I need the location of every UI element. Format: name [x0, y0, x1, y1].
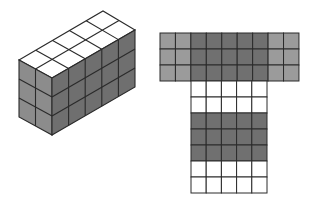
net-cell [206, 49, 221, 65]
net-cell [237, 97, 252, 113]
net-cell [237, 81, 252, 97]
net-cell [237, 49, 252, 65]
net-cell [206, 161, 221, 177]
net-cell [191, 49, 206, 65]
net-cell [252, 129, 267, 145]
net-cell [206, 81, 221, 97]
net-cell [191, 113, 206, 129]
net-cell [191, 145, 206, 161]
net-cell [175, 65, 190, 81]
net-cell [253, 33, 268, 49]
net-cell [252, 145, 267, 161]
net-cell [221, 145, 236, 161]
net-cell [191, 129, 206, 145]
net-cell [221, 81, 236, 97]
net-cell [191, 97, 206, 113]
net-cell [222, 49, 237, 65]
net-cell [191, 177, 206, 193]
net-cell [284, 65, 299, 81]
net-cell [221, 177, 236, 193]
net-cell [237, 65, 252, 81]
net-cell [221, 113, 236, 129]
net-cell [284, 49, 299, 65]
net-cell [206, 33, 221, 49]
cuboid-net-diagram [0, 0, 312, 204]
net-cell [237, 161, 252, 177]
net-cell [237, 145, 252, 161]
net-cell [252, 81, 267, 97]
cuboid-net [160, 33, 299, 193]
net-cell [160, 33, 175, 49]
net-cell [253, 49, 268, 65]
net-cell [191, 33, 206, 49]
net-cell [268, 33, 283, 49]
net-cell [175, 49, 190, 65]
net-cell [160, 49, 175, 65]
net-cell [221, 161, 236, 177]
net-cell [206, 97, 221, 113]
net-cell [268, 65, 283, 81]
net-cell [237, 129, 252, 145]
net-cell [222, 33, 237, 49]
net-cell [206, 129, 221, 145]
net-cell [175, 33, 190, 49]
net-cell [253, 65, 268, 81]
net-cell [191, 161, 206, 177]
net-cell [252, 97, 267, 113]
net-cell [221, 129, 236, 145]
net-cell [252, 177, 267, 193]
net-cell [252, 161, 267, 177]
net-cell [284, 33, 299, 49]
net-cell [221, 97, 236, 113]
net-cell [206, 113, 221, 129]
net-cell [237, 177, 252, 193]
isometric-cuboid [19, 11, 135, 135]
net-cell [252, 113, 267, 129]
net-cell [206, 177, 221, 193]
net-cell [206, 65, 221, 81]
net-cell [222, 65, 237, 81]
net-cell [268, 49, 283, 65]
net-cell [191, 81, 206, 97]
net-cell [160, 65, 175, 81]
net-cell [237, 113, 252, 129]
net-cell [237, 33, 252, 49]
net-cell [191, 65, 206, 81]
net-cell [206, 145, 221, 161]
